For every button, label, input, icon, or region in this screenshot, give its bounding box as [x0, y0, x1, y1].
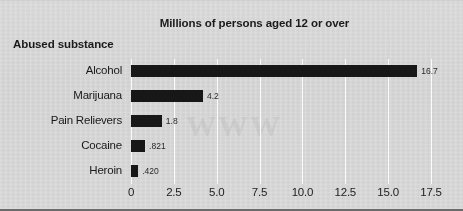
category-label-marijuana: Marijuana — [73, 88, 122, 102]
bar-value-label: 1.8 — [166, 115, 178, 127]
x-tick-15.0: 15.0 — [377, 186, 399, 198]
bar-row: Pain Relievers1.8 — [131, 109, 431, 134]
bar-row: Marijuana4.2 — [131, 84, 431, 109]
bar-heroin[interactable] — [131, 165, 138, 177]
bar-row: Cocaine.821 — [131, 134, 431, 159]
x-tick-10.0: 10.0 — [292, 186, 314, 198]
category-label-alcohol: Alcohol — [86, 63, 122, 77]
x-tick-2.5: 2.5 — [166, 186, 181, 198]
bar-value-label: .420 — [142, 165, 159, 177]
bar-pain-relievers[interactable] — [131, 115, 162, 127]
bar-value-label: 4.2 — [207, 90, 219, 102]
x-tick-12.5: 12.5 — [334, 186, 356, 198]
bar-alcohol[interactable] — [131, 65, 417, 77]
bar-value-label: 16.7 — [421, 65, 438, 77]
bar-marijuana[interactable] — [131, 90, 203, 102]
x-tick-0: 0 — [128, 186, 134, 198]
x-tick-17.5: 17.5 — [420, 186, 442, 198]
x-tick-7.5: 7.5 — [252, 186, 267, 198]
bar-value-label: .821 — [149, 140, 166, 152]
chart-title: Millions of persons aged 12 or over — [0, 17, 463, 29]
category-label-pain-relievers: Pain Relievers — [51, 113, 122, 127]
bar-chart-figure: WWW Millions of persons aged 12 or over … — [0, 0, 463, 211]
x-axis-tick-labels: 02.55.07.510.012.515.017.5 — [131, 186, 431, 204]
y-axis-title: Abused substance — [13, 38, 114, 50]
plot-area: Alcohol16.7Marijuana4.2Pain Relievers1.8… — [131, 59, 431, 184]
x-tick-5.0: 5.0 — [209, 186, 224, 198]
gridline-17.5 — [431, 59, 432, 184]
bar-row: Heroin.420 — [131, 159, 431, 184]
bar-cocaine[interactable] — [131, 140, 145, 152]
bar-row: Alcohol16.7 — [131, 59, 431, 84]
category-label-cocaine: Cocaine — [81, 138, 122, 152]
category-label-heroin: Heroin — [89, 163, 122, 177]
